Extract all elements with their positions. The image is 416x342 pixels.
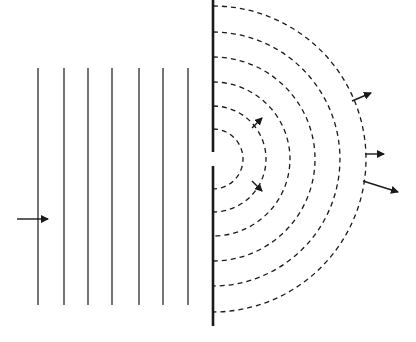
arrow-icon: [363, 181, 398, 192]
arrow-icon: [252, 181, 262, 191]
circular-wavefront: [213, 82, 290, 236]
circular-wavefront: [213, 129, 243, 189]
circular-wavefront: [213, 57, 315, 261]
arrow-icon: [252, 118, 262, 128]
diffracted-wavefronts: [213, 6, 366, 312]
diffraction-diagram: [0, 0, 416, 342]
circular-wavefront: [213, 32, 340, 286]
outgoing-direction-arrows: [252, 93, 398, 192]
arrow-icon: [352, 93, 371, 101]
plane-wavefronts: [38, 68, 188, 305]
